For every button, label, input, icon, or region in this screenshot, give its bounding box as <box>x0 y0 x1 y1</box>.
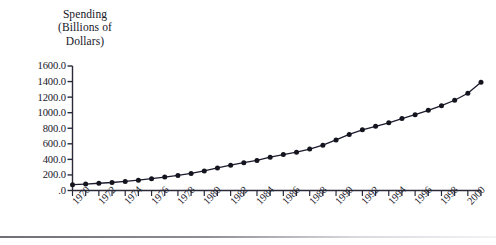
spending-line-chart-figure: Spending (Billions of Dollars) 1600.0140… <box>0 0 496 245</box>
footer-divider-rule <box>0 236 496 238</box>
data-point-marker <box>268 155 273 160</box>
plot-area <box>0 0 496 245</box>
data-point-marker <box>320 143 325 148</box>
data-point-marker <box>294 150 299 155</box>
data-point-marker <box>281 152 286 157</box>
data-point-marker <box>123 179 128 184</box>
data-point-marker <box>360 127 365 132</box>
data-point-marker <box>307 147 312 152</box>
y-axis-ticks <box>68 66 73 191</box>
spending-series-markers <box>70 80 484 187</box>
data-point-marker <box>439 103 444 108</box>
data-point-marker <box>202 168 207 173</box>
data-point-marker <box>347 132 352 137</box>
data-point-marker <box>386 120 391 125</box>
data-point-marker <box>162 175 167 180</box>
data-point-marker <box>241 160 246 165</box>
data-point-marker <box>334 137 339 142</box>
data-point-marker <box>70 182 75 187</box>
data-point-marker <box>175 173 180 178</box>
data-point-marker <box>149 176 154 181</box>
data-point-marker <box>452 98 457 103</box>
data-point-marker <box>254 158 259 163</box>
data-point-marker <box>215 165 220 170</box>
data-point-marker <box>136 178 141 183</box>
spending-series-line <box>73 82 482 184</box>
data-point-marker <box>110 180 115 185</box>
data-point-marker <box>96 181 101 186</box>
data-point-marker <box>413 112 418 117</box>
data-point-marker <box>83 182 88 187</box>
data-point-marker <box>399 116 404 121</box>
x-axis-ticks <box>73 191 482 197</box>
data-point-marker <box>373 124 378 129</box>
data-point-marker <box>228 163 233 168</box>
data-point-marker <box>479 80 484 85</box>
data-point-marker <box>189 171 194 176</box>
data-point-marker <box>465 91 470 96</box>
data-point-marker <box>426 108 431 113</box>
